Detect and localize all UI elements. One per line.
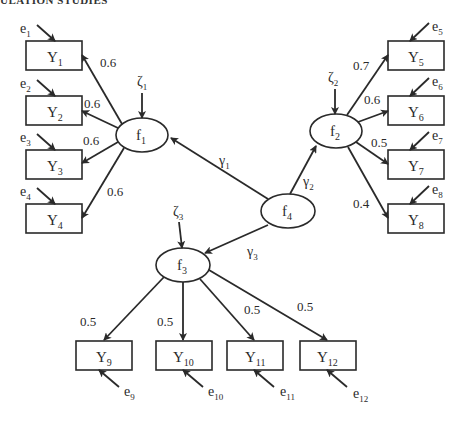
svg-text:ζ2: ζ2 <box>328 70 338 88</box>
disturbance-zeta2: ζ2 <box>328 70 338 114</box>
loading-y5: 0.7 <box>353 58 370 73</box>
factor-f2: f2 <box>310 114 362 148</box>
indicator-y2: Y2 <box>26 96 82 125</box>
svg-text:e7: e7 <box>432 128 443 146</box>
indicator-y6: Y6 <box>388 96 444 125</box>
indicator-y7: Y7 <box>388 150 444 179</box>
error-e9: e9 <box>99 370 135 402</box>
factor-f4: f4 <box>261 194 315 228</box>
loading-y10: 0.5 <box>157 314 173 329</box>
svg-text:e6: e6 <box>432 74 443 92</box>
loading-y2: 0.6 <box>84 96 101 111</box>
svg-text:e4: e4 <box>20 184 31 202</box>
svg-text:e5: e5 <box>432 19 443 37</box>
loading-y6: 0.6 <box>364 92 381 107</box>
indicator-y11: Y11 <box>227 341 283 370</box>
svg-text:e10: e10 <box>208 384 224 402</box>
error-e12: e12 <box>327 370 368 404</box>
indicator-y4: Y4 <box>26 204 82 233</box>
path-gamma3 <box>205 225 268 253</box>
loading-y11: 0.5 <box>244 302 260 317</box>
disturbance-zeta1: ζ1 <box>137 74 147 118</box>
error-e8: e8 <box>410 182 443 204</box>
indicator-y5: Y5 <box>388 41 444 70</box>
indicator-y8: Y8 <box>388 204 444 233</box>
path-gamma1 <box>171 138 268 199</box>
indicator-y3: Y3 <box>26 150 82 179</box>
gamma3-label: γ3 <box>246 244 258 262</box>
svg-text:e11: e11 <box>280 384 295 402</box>
loading-y3: 0.6 <box>83 133 100 148</box>
svg-text:e8: e8 <box>432 182 443 200</box>
loading-y4: 0.6 <box>107 184 124 199</box>
error-e1: e1 <box>20 21 55 41</box>
loading-y1: 0.6 <box>100 55 117 70</box>
factor-f3: f3 <box>156 248 210 282</box>
error-e3: e3 <box>20 130 55 150</box>
svg-text:e9: e9 <box>124 384 135 402</box>
loading-y9: 0.5 <box>80 314 96 329</box>
indicator-y10: Y10 <box>156 341 212 370</box>
error-e11: e11 <box>254 370 295 402</box>
error-e4: e4 <box>20 184 55 204</box>
svg-text:e3: e3 <box>20 130 31 148</box>
error-e5: e5 <box>410 19 443 41</box>
svg-text:e12: e12 <box>353 386 368 404</box>
loading-y8: 0.4 <box>353 196 370 211</box>
factor-f1: f1 <box>116 118 168 152</box>
gamma2-label: γ2 <box>302 174 314 192</box>
indicator-y12: Y12 <box>300 341 356 370</box>
error-e6: e6 <box>410 74 443 96</box>
loading-y12: 0.5 <box>297 299 313 314</box>
error-e10: e10 <box>183 370 224 402</box>
svg-text:e2: e2 <box>20 76 31 94</box>
indicator-y9: Y9 <box>76 341 132 370</box>
svg-text:ζ3: ζ3 <box>173 204 184 222</box>
error-e2: e2 <box>20 76 55 96</box>
sem-diagram: Y1 Y2 Y3 Y4 e1 e2 e3 e4 f1 ζ1 0.6 <box>0 0 464 422</box>
indicator-y1: Y1 <box>26 41 82 70</box>
loading-y7: 0.5 <box>371 135 387 150</box>
disturbance-zeta3: ζ3 <box>173 204 184 248</box>
svg-text:e1: e1 <box>20 21 31 39</box>
svg-text:ζ1: ζ1 <box>137 74 147 92</box>
error-e7: e7 <box>410 128 443 150</box>
